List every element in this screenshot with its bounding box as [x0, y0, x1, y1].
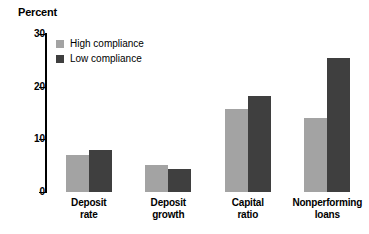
bar-group — [66, 34, 112, 192]
bar-group — [145, 34, 191, 192]
bar — [89, 150, 112, 192]
bar-group — [304, 34, 350, 192]
y-tick-label-20: 20 — [21, 82, 45, 92]
bar — [66, 155, 89, 192]
bar — [327, 58, 350, 192]
bar — [168, 169, 191, 192]
bar-groups — [47, 34, 365, 192]
bar — [225, 109, 248, 192]
category-label-line: loans — [272, 209, 369, 221]
bar — [145, 165, 168, 192]
plot-area — [47, 34, 365, 192]
bar-chart: Percent 0102030 High compliance Low comp… — [0, 0, 369, 234]
y-tick-label-30: 30 — [21, 29, 45, 39]
y-tick-label-0: 0 — [21, 187, 45, 197]
category-label: Nonperformingloans — [272, 197, 369, 221]
y-tick-label-10: 10 — [21, 134, 45, 144]
category-label-line: Nonperforming — [272, 197, 369, 209]
category-labels: DepositrateDepositgrowthCapitalratioNonp… — [47, 197, 365, 231]
bar-group — [225, 34, 271, 192]
bar — [304, 118, 327, 192]
bar — [248, 96, 271, 192]
